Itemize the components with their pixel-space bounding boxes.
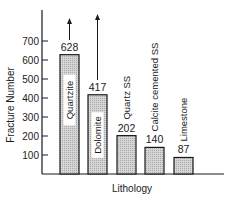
bar-value-label: 417 — [89, 81, 107, 93]
bar-value-label: 628 — [61, 41, 79, 53]
bar-quartz-ss: 202Quartz SS — [117, 76, 136, 174]
bars: 628Quartzite417Dolomite202Quartz SS140Ca… — [60, 14, 193, 174]
bar-rect — [117, 136, 136, 174]
y-tick-label: 400 — [22, 93, 39, 104]
bar-category-label: Calcite cemented SS — [149, 43, 160, 132]
x-axis-title: Lithology — [112, 183, 152, 194]
bar-category-label: Quartz SS — [121, 76, 132, 120]
bar-value-label: 140 — [146, 133, 164, 145]
bar-quartzite: 628Quartzite — [60, 41, 79, 174]
bar-rect — [145, 147, 164, 174]
up-arrow-icon — [95, 14, 100, 80]
bar-calcite-cemented-ss: 140Calcite cemented SS — [145, 43, 164, 174]
bar-limestone: 87Limestone — [174, 98, 193, 174]
bar-dolomite: 417Dolomite — [88, 81, 107, 174]
bar-value-label: 87 — [178, 143, 190, 155]
y-tick-label: 600 — [22, 55, 39, 66]
y-tick-label: 700 — [22, 36, 39, 47]
y-tick-label: 200 — [22, 131, 39, 142]
y-axis: 100200300400500600700 — [22, 10, 48, 174]
bar-category-label: Limestone — [178, 98, 189, 142]
bar-category-label: Dolomite — [92, 116, 103, 154]
bar-category-label: Quartzite — [64, 81, 75, 120]
y-tick-label: 500 — [22, 74, 39, 85]
up-arrow-icon — [67, 18, 72, 40]
fracture-number-bar-chart: 100200300400500600700 628Quartzite417Dol… — [0, 0, 230, 199]
bar-rect — [174, 157, 193, 174]
y-tick-label: 100 — [22, 150, 39, 161]
bar-value-label: 202 — [118, 122, 136, 134]
y-tick-label: 300 — [22, 112, 39, 123]
y-axis-title: Fracture Number — [5, 67, 16, 143]
